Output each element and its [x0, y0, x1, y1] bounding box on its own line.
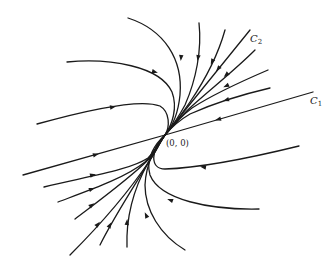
trajectory-left-bot-4	[70, 135, 165, 255]
arrowhead-icon	[222, 71, 229, 78]
trajectory-layer	[23, 18, 313, 255]
arrowhead-icon	[222, 97, 229, 103]
c2-label-subscript: 2	[258, 38, 262, 46]
arrowhead-icon	[179, 55, 184, 61]
arrowhead-icon	[93, 152, 100, 158]
arrowhead-icon	[166, 197, 173, 203]
trajectory-left-bot-6	[127, 135, 165, 247]
arrowhead-icon	[215, 117, 222, 123]
phase-portrait-diagram: (0, 0) C2 C1	[0, 0, 334, 273]
trajectory-c1-line	[23, 92, 313, 175]
trajectory-left-top-1	[67, 61, 174, 135]
c2-label: C2	[250, 33, 262, 46]
c1-label-subscript: 1	[318, 100, 322, 108]
origin-label: (0, 0)	[166, 138, 189, 148]
c1-label: C1	[310, 95, 322, 108]
trajectory-right-bot-3	[145, 135, 185, 250]
arrowhead-icon	[88, 186, 95, 192]
arrowhead-icon	[94, 220, 101, 227]
trajectory-left-top-2	[37, 104, 168, 135]
arrowhead-icon	[143, 211, 150, 218]
arrowhead-icon	[110, 104, 117, 109]
